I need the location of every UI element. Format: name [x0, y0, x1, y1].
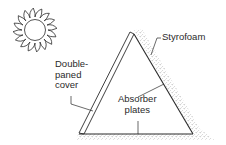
solar-collector-diagram: Double- paned cover Styrofoam Absorber p…	[0, 0, 226, 145]
diagram-graphics	[0, 0, 226, 145]
double-paned-cover-label: Double- paned cover	[55, 59, 88, 91]
absorber-plates-label: Absorber plates	[118, 94, 157, 115]
sun-icon	[13, 8, 57, 52]
absorber-plates	[79, 34, 193, 134]
styrofoam-insulation	[76, 29, 215, 140]
cover-leader	[71, 96, 93, 111]
styrofoam-label: Styrofoam	[162, 32, 205, 43]
